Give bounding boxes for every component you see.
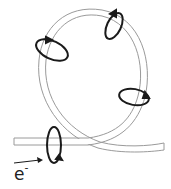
arrowhead-icon — [143, 92, 149, 98]
arrow-right-icon — [37, 157, 43, 163]
charge-superscript: - — [24, 161, 28, 174]
electron-label: e- — [14, 164, 28, 183]
field-loop-right — [118, 87, 150, 108]
electron-symbol: e — [14, 164, 24, 184]
field-loop-top-right — [102, 10, 127, 42]
arrowhead-icon — [110, 10, 116, 17]
electron-direction-arrow — [14, 157, 43, 163]
arrowhead-icon — [56, 155, 62, 160]
wire — [14, 9, 164, 152]
